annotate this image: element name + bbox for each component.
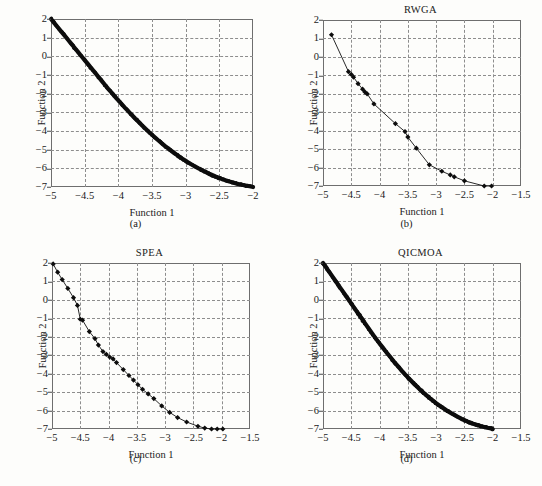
panel-c-series bbox=[52, 263, 250, 429]
y-axis-tick-label: 1 bbox=[43, 276, 48, 287]
y-axis-tickmark bbox=[319, 168, 323, 169]
x-axis-tick-label: −4 bbox=[103, 433, 114, 444]
y-axis-tick-label: −2 bbox=[308, 89, 319, 100]
y-axis-tick-label: 2 bbox=[43, 258, 48, 269]
y-axis-tick-label: −4 bbox=[37, 368, 48, 379]
y-axis-tickmark bbox=[48, 337, 52, 338]
data-point-marker bbox=[489, 183, 494, 188]
panel-c-title: SPEA bbox=[0, 247, 271, 258]
data-point bbox=[491, 428, 494, 431]
data-point-marker bbox=[215, 426, 220, 431]
panel-c-caption: (c) bbox=[0, 453, 271, 464]
panel-a-series bbox=[51, 19, 253, 187]
panel-b-plot: Function 2 Function 1 −5−4.5−4−3.5−3−2.5… bbox=[323, 20, 521, 186]
data-point-marker bbox=[220, 426, 225, 431]
y-axis-tickmark bbox=[319, 94, 323, 95]
pareto-front-curve bbox=[51, 19, 253, 187]
y-axis-tick-label: 2 bbox=[42, 14, 47, 25]
data-point-marker bbox=[462, 178, 467, 183]
y-axis-tick-label: 0 bbox=[42, 51, 47, 62]
y-axis-tick-label: 2 bbox=[314, 258, 319, 269]
figure-panel-grid: Function 2 Function 1 −5−4.5−4−3.5−3−2.5… bbox=[0, 0, 542, 486]
data-point-marker bbox=[175, 415, 180, 420]
y-axis-tickmark bbox=[48, 318, 52, 319]
y-axis-tickmark bbox=[319, 263, 323, 264]
x-axis-tick-label: −4.5 bbox=[342, 190, 361, 201]
y-axis-tickmark bbox=[319, 281, 323, 282]
panel-d-title: QICMOA bbox=[271, 247, 542, 258]
panel-a-xlabel: Function 1 bbox=[51, 207, 253, 218]
data-point-marker bbox=[60, 277, 65, 282]
y-axis-tick-label: −1 bbox=[36, 70, 47, 81]
y-axis-tick-label: −3 bbox=[308, 107, 319, 118]
y-axis-tick-label: −2 bbox=[308, 332, 319, 343]
y-axis-tickmark bbox=[48, 300, 52, 301]
y-axis-tick-label: −3 bbox=[36, 107, 47, 118]
pareto-front-curve bbox=[323, 263, 493, 429]
x-axis-tick-label: −4 bbox=[374, 433, 385, 444]
panel-b-series bbox=[323, 20, 521, 186]
y-axis-tick-label: −2 bbox=[37, 332, 48, 343]
y-axis-tick-label: −3 bbox=[37, 350, 48, 361]
panel-b-caption: (b) bbox=[271, 218, 542, 229]
data-point bbox=[251, 185, 254, 188]
y-axis-tick-label: 1 bbox=[314, 276, 319, 287]
x-axis-tick-label: −1.5 bbox=[240, 433, 259, 444]
y-axis-tickmark bbox=[47, 94, 51, 95]
y-axis-tickmark bbox=[47, 19, 51, 20]
panel-a-caption: (a) bbox=[0, 218, 271, 229]
y-axis-tick-label: −1 bbox=[308, 70, 319, 81]
y-axis-tick-label: −4 bbox=[308, 368, 319, 379]
x-axis-tick-label: −2 bbox=[216, 433, 227, 444]
y-axis-tickmark bbox=[319, 57, 323, 58]
y-axis-tickmark bbox=[319, 411, 323, 412]
y-axis-tick-label: −6 bbox=[36, 163, 47, 174]
y-axis-tickmark bbox=[319, 112, 323, 113]
panel-b-title: RWGA bbox=[271, 4, 542, 15]
y-axis-tick-label: −7 bbox=[308, 181, 319, 192]
x-axis-tick-label: −4.5 bbox=[342, 433, 361, 444]
y-axis-tick-label: −5 bbox=[308, 387, 319, 398]
y-axis-tick-label: 2 bbox=[314, 15, 319, 26]
y-axis-tick-label: −4 bbox=[308, 125, 319, 136]
y-axis-tickmark bbox=[319, 131, 323, 132]
y-axis-tickmark bbox=[47, 131, 51, 132]
data-point-marker bbox=[65, 286, 70, 291]
x-axis-tick-label: −3 bbox=[180, 191, 191, 202]
x-axis-tick-label: −3 bbox=[160, 433, 171, 444]
y-axis-tickmark bbox=[319, 392, 323, 393]
data-point-marker bbox=[55, 270, 60, 275]
panel-d-plot: Function 2 Function 1 −5−4.5−4−3.5−3−2.5… bbox=[323, 263, 521, 429]
y-axis-tickmark bbox=[319, 337, 323, 338]
x-axis-tick-label: −2 bbox=[487, 433, 498, 444]
panel-d: QICMOA Function 2 Function 1 −5−4.5−4−3.… bbox=[271, 243, 542, 486]
y-axis-tickmark bbox=[47, 56, 51, 57]
data-point-marker bbox=[184, 419, 189, 424]
panel-a: Function 2 Function 1 −5−4.5−4−3.5−3−2.5… bbox=[0, 0, 271, 243]
panel-c-plot: Function 2 Function 1 −5−4.5−4−3.5−3−2.5… bbox=[52, 263, 250, 429]
data-point-marker bbox=[202, 425, 207, 430]
x-axis-tick-label: −2 bbox=[487, 190, 498, 201]
y-axis-tickmark bbox=[47, 168, 51, 169]
data-point-marker bbox=[195, 424, 200, 429]
x-axis-tick-label: −3.5 bbox=[142, 191, 161, 202]
y-axis-tick-label: −2 bbox=[36, 88, 47, 99]
y-axis-tickmark bbox=[319, 149, 323, 150]
panel-d-caption: (d) bbox=[271, 453, 542, 464]
y-axis-tickmark bbox=[319, 355, 323, 356]
x-axis-tick-label: −4 bbox=[374, 190, 385, 201]
y-axis-tick-label: −6 bbox=[308, 405, 319, 416]
y-axis-tickmark bbox=[48, 263, 52, 264]
data-point-marker bbox=[439, 169, 444, 174]
x-axis-tick-label: −5 bbox=[45, 191, 56, 202]
y-axis-tickmark bbox=[319, 38, 323, 39]
y-axis-tickmark bbox=[48, 281, 52, 282]
panel-a-plot: Function 2 Function 1 −5−4.5−4−3.5−3−2.5… bbox=[51, 19, 253, 187]
y-axis-tickmark bbox=[48, 374, 52, 375]
y-axis-tick-label: −1 bbox=[37, 313, 48, 324]
y-axis-tick-label: −3 bbox=[308, 350, 319, 361]
y-axis-tickmark bbox=[47, 38, 51, 39]
data-point-marker bbox=[75, 303, 80, 308]
data-point-marker bbox=[482, 183, 487, 188]
x-axis-tick-label: −3.5 bbox=[398, 190, 417, 201]
